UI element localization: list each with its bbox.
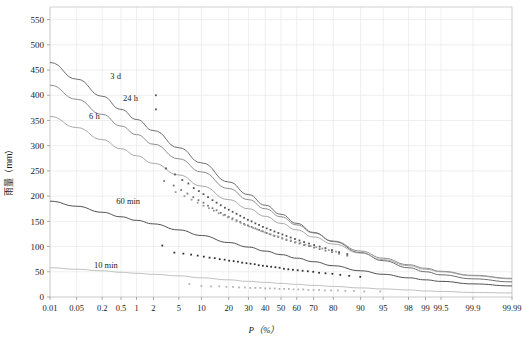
y-tick-label-1: 50 — [35, 267, 45, 277]
x-tick-label-7: 10 — [197, 303, 206, 313]
x-tick-label-5: 2 — [151, 303, 155, 313]
x-tick-label-0: 0.01 — [43, 303, 58, 313]
y-axis-title: 雨量（mm） — [4, 145, 14, 196]
y-tick-label-5: 250 — [31, 166, 45, 176]
y-tick-label-8: 400 — [31, 90, 45, 100]
x-tick-label-6: 5 — [177, 303, 181, 313]
x-tick-label-15: 90 — [356, 303, 365, 313]
x-tick-label-19: 99.5 — [434, 303, 449, 313]
x-tick-label-1: 0.05 — [69, 303, 84, 313]
chart-canvas: 0.010.050.20.512510203040506070809095989… — [0, 0, 522, 340]
y-tick-label-3: 150 — [31, 217, 45, 227]
y-tick-label-11: 550 — [31, 15, 45, 25]
curve-label-10-min: 10 min — [94, 260, 119, 270]
x-tick-label-8: 20 — [224, 303, 233, 313]
curve-label-24-h: 24 h — [123, 93, 139, 103]
x-tick-label-3: 0.5 — [116, 303, 127, 313]
curve-label-3-d: 3 d — [110, 71, 121, 81]
rainfall-frequency-chart: 0.010.050.20.512510203040506070809095989… — [0, 0, 522, 340]
x-tick-label-18: 99 — [421, 303, 430, 313]
x-tick-label-17: 98 — [404, 303, 413, 313]
y-tick-label-4: 200 — [31, 191, 45, 201]
curve-label-6-h: 6 h — [89, 111, 100, 121]
y-tick-label-6: 300 — [31, 141, 45, 151]
y-tick-label-2: 100 — [31, 242, 45, 252]
x-tick-label-2: 0.2 — [97, 303, 108, 313]
y-tick-label-10: 500 — [31, 40, 45, 50]
x-tick-label-20: 99.9 — [466, 303, 481, 313]
chart-background — [0, 0, 522, 340]
x-axis-title: P（%） — [248, 325, 280, 335]
x-tick-label-14: 80 — [329, 303, 338, 313]
y-tick-label-0: 0 — [40, 292, 45, 302]
x-tick-label-21: 99.99 — [502, 303, 521, 313]
y-tick-label-9: 450 — [31, 65, 45, 75]
x-tick-label-11: 50 — [277, 303, 286, 313]
x-tick-label-16: 95 — [379, 303, 388, 313]
curve-label-60-min: 60 min — [116, 196, 141, 206]
x-tick-label-12: 60 — [292, 303, 301, 313]
y-tick-label-7: 350 — [31, 116, 45, 126]
x-tick-label-9: 30 — [244, 303, 253, 313]
x-tick-label-13: 70 — [309, 303, 318, 313]
x-tick-label-4: 1 — [134, 303, 138, 313]
x-tick-label-10: 40 — [261, 303, 270, 313]
